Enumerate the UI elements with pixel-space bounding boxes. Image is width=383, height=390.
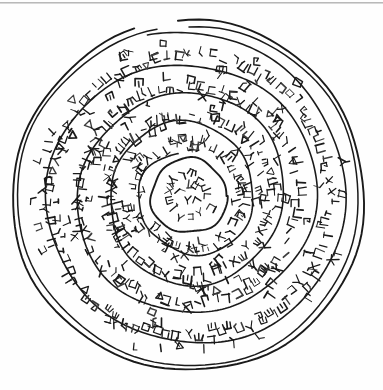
- glyph-tick-vert: [289, 148, 296, 152]
- glyph-wedge: [68, 95, 79, 106]
- glyph-resh-like: [61, 216, 71, 226]
- glyph-shin-like: [238, 252, 248, 262]
- glyph-tick-vert: [306, 252, 314, 254]
- glyph-shin-like: [253, 238, 262, 247]
- glyph-bet-like: [206, 203, 216, 213]
- glyph-tet-like: [235, 187, 244, 196]
- glyph-qof-like: [128, 184, 136, 190]
- glyph-resh-like: [163, 72, 171, 81]
- glyph-samekh-like: [141, 323, 150, 332]
- glyph-he-like: [114, 201, 124, 211]
- glyph-bet-like: [232, 288, 243, 300]
- glyph-nun-like: [95, 256, 103, 264]
- glyph-tick-short: [177, 90, 182, 92]
- glyph-kaf-like: [208, 87, 216, 95]
- glyph-mem-like: [217, 326, 226, 335]
- glyph-wedge: [69, 131, 79, 141]
- glyph-ayin-like: [166, 174, 178, 186]
- glyph-samekh-like: [160, 40, 167, 47]
- glyph-shin-like: [105, 304, 114, 313]
- glyph-het-like: [128, 247, 139, 258]
- glyph-nun-like: [218, 102, 223, 111]
- glyph-ayin-like: [177, 213, 185, 222]
- glyph-shin-like: [126, 96, 137, 107]
- glyph-vav-like: [121, 242, 130, 250]
- glyph-zayin-like: [297, 180, 306, 186]
- glyph-tet-like: [208, 322, 217, 331]
- glyph-mem-like: [233, 322, 245, 334]
- glyph-mem-like: [93, 156, 102, 165]
- bowl-drawing: [0, 0, 383, 390]
- glyph-mem-like: [103, 148, 112, 157]
- glyph-qof-like: [201, 183, 211, 191]
- glyph-dalet-like: [193, 196, 202, 205]
- glyph-het-like: [193, 267, 202, 276]
- glyph-tick-vert: [319, 244, 327, 247]
- glyph-dalet-like: [303, 250, 311, 258]
- glyph-he-like: [293, 207, 303, 218]
- glyph-tick-vert: [79, 189, 86, 190]
- glyph-gimel-like: [96, 125, 107, 136]
- incantation-bowl-figure: Circular line drawing of a magic incanta…: [0, 0, 383, 390]
- glyph-pe-like: [85, 195, 92, 202]
- glyph-zayin-like: [47, 127, 56, 136]
- glyph-tet-like: [264, 308, 274, 317]
- glyph-vav-like: [70, 108, 78, 113]
- glyph-ayin-like: [245, 321, 257, 334]
- glyph-tav-like: [227, 164, 236, 173]
- glyph-het-like: [298, 187, 307, 196]
- glyph-zayin-like: [323, 232, 333, 240]
- glyph-bet-like: [38, 246, 47, 255]
- glyph-tick-short: [219, 60, 226, 63]
- glyph-lamed-like: [109, 267, 118, 276]
- glyph-tick-vert: [45, 140, 53, 143]
- glyph-qof-like: [186, 142, 194, 152]
- glyph-pe-like: [109, 165, 116, 172]
- glyph-yod-like: [325, 211, 331, 216]
- glyph-tav-like: [119, 136, 129, 146]
- glyph-ayin-like: [241, 241, 251, 251]
- glyph-vav-like: [152, 151, 160, 159]
- glyph-het-like: [315, 143, 325, 153]
- glyph-he-like: [302, 117, 314, 128]
- glyph-gimel-like: [120, 260, 130, 270]
- glyph-yod-like: [257, 150, 262, 155]
- bowl-rim-outer: [13, 20, 364, 370]
- glyph-kaf-like: [287, 285, 296, 294]
- glyph-aleph-like: [70, 233, 78, 241]
- glyph-kaf-like: [99, 139, 109, 149]
- glyph-bet-like: [229, 91, 237, 100]
- glyph-ayin-like: [185, 196, 191, 204]
- glyph-dalet-like: [159, 232, 172, 245]
- glyph-zayin-like: [282, 295, 292, 306]
- glyph-kaf-like: [308, 126, 317, 135]
- glyph-dalet-like: [264, 291, 276, 303]
- glyph-gimel-like: [314, 180, 324, 188]
- glyph-tick-short: [58, 149, 62, 155]
- glyph-he-like: [224, 120, 235, 132]
- glyph-vav-like: [249, 141, 259, 149]
- glyph-shin-like: [259, 218, 267, 227]
- glyph-mem-like: [276, 83, 287, 94]
- glyph-tick-vert: [258, 171, 264, 176]
- glyph-zayin-like: [332, 199, 339, 204]
- glyph-ayin-like: [141, 153, 153, 165]
- glyph-qof-like: [243, 278, 253, 290]
- glyph-samekh-like: [147, 307, 156, 316]
- glyph-tsade-like: [124, 46, 133, 56]
- glyph-gimel-like: [257, 135, 267, 144]
- glyph-wedge: [210, 285, 221, 296]
- glyph-ayin-like: [195, 207, 204, 216]
- central-circle: [150, 157, 228, 232]
- glyph-het-like: [34, 223, 43, 231]
- glyph-yod-like: [316, 128, 322, 134]
- glyph-he-like: [106, 225, 114, 231]
- glyph-het-like: [244, 191, 251, 198]
- glyph-zayin-like: [219, 85, 226, 94]
- glyph-resh-like: [158, 85, 165, 93]
- glyph-he-like: [92, 78, 104, 89]
- glyph-aleph-like: [165, 187, 173, 195]
- glyph-samekh-like: [285, 89, 294, 98]
- glyph-tick-short: [283, 251, 288, 258]
- glyph-nun-like: [207, 112, 212, 119]
